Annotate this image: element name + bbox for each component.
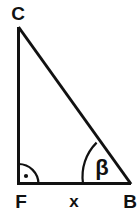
triangle-diagram-canvas: C F B x β (0, 0, 139, 217)
triangle-hypotenuse-cb (19, 27, 132, 184)
vertex-label-f: F (15, 191, 27, 212)
right-angle-dot-icon (24, 174, 28, 178)
side-label-x: x (69, 192, 79, 211)
geometry-figure: C F B x β (0, 0, 139, 217)
vertex-label-c: C (11, 3, 25, 24)
right-angle-mark (19, 164, 39, 184)
angle-label-beta: β (95, 155, 108, 180)
vertex-label-b: B (123, 191, 137, 212)
